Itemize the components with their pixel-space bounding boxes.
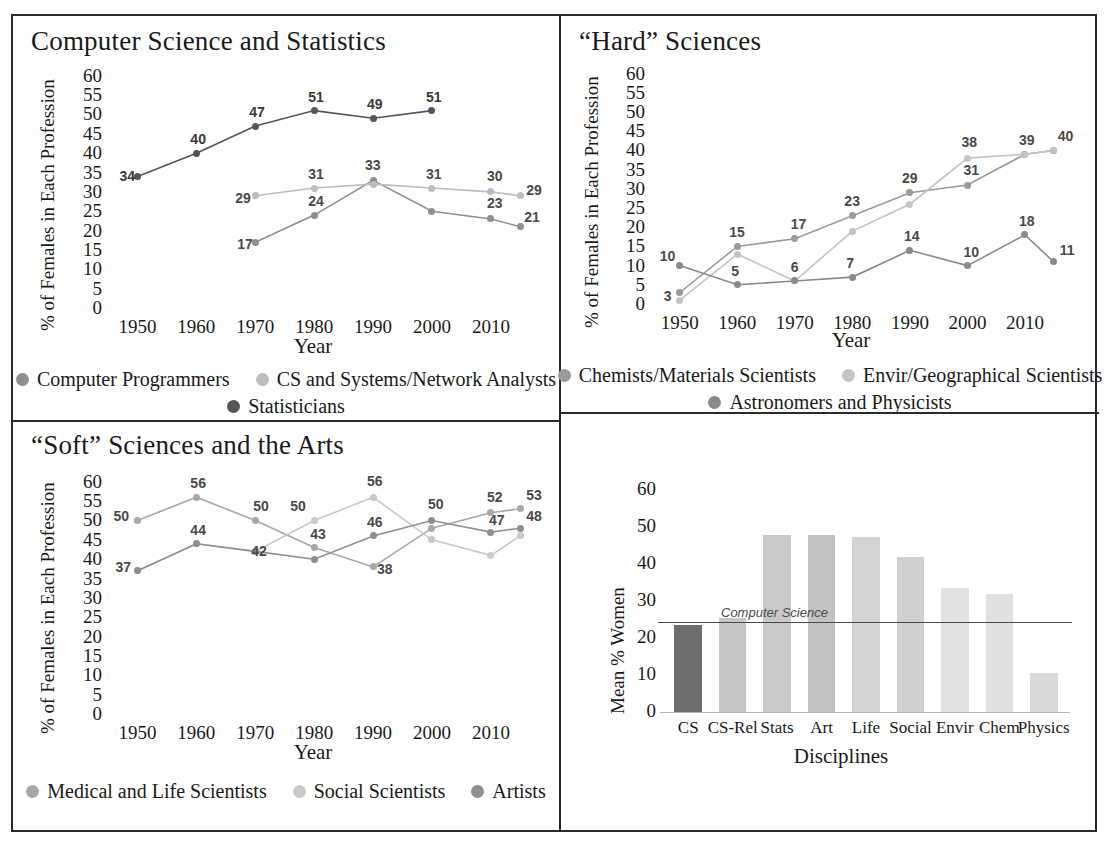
data-point-label: 50 [113, 508, 129, 524]
legend-item[interactable]: Astronomers and Physicists [708, 391, 951, 414]
bar[interactable] [763, 535, 791, 712]
data-point [370, 115, 377, 122]
legend-item[interactable]: Chemists/Materials Scientists [558, 364, 816, 387]
legend-item[interactable]: Envir/Geographical Scientists [842, 364, 1102, 387]
data-point [311, 107, 318, 114]
legend-label: Medical and Life Scientists [47, 780, 266, 803]
data-point [517, 525, 524, 532]
x-axis-label: Disciplines [661, 744, 1021, 769]
x-tick-label: 2000 [402, 316, 462, 338]
data-point-label: 34 [119, 168, 135, 184]
data-point-label: 3 [664, 288, 672, 304]
data-point [311, 212, 318, 219]
data-point-label: 46 [367, 514, 383, 530]
x-tick-label: 1950 [650, 312, 710, 334]
data-point [487, 529, 494, 536]
data-point-label: 30 [487, 168, 503, 184]
bar[interactable] [674, 625, 702, 712]
legend-dot-icon [256, 373, 269, 386]
data-point [252, 517, 259, 524]
data-point-label: 43 [310, 526, 326, 542]
data-point-label: 47 [249, 104, 265, 120]
panel-title: Computer Science and Statistics [31, 26, 386, 57]
data-point [311, 517, 318, 524]
data-point-label: 10 [660, 248, 676, 264]
bar[interactable] [941, 588, 969, 712]
data-point-label: 37 [115, 559, 131, 575]
y-tick-label: 50 [626, 515, 656, 537]
data-point-label: 38 [961, 134, 977, 150]
data-point [734, 251, 741, 258]
x-tick-label: 1990 [880, 312, 940, 334]
legend-dot-icon [16, 373, 29, 386]
legend-item[interactable]: Social Scientists [293, 780, 446, 803]
x-tick-label: 1970 [765, 312, 825, 334]
y-axis-label: % of Females in Each Profession [581, 76, 603, 328]
x-tick-label: 1960 [166, 722, 226, 744]
x-tick-label: 1960 [166, 316, 226, 338]
data-point-label: 29 [526, 182, 542, 198]
data-point-label: 6 [791, 259, 799, 275]
data-point-label: 18 [1019, 213, 1035, 229]
panel-soft-sciences: “Soft” Sciences and the Arts % of Female… [13, 422, 559, 832]
data-point-label: 23 [844, 193, 860, 209]
data-point-label: 31 [426, 166, 442, 182]
data-point-label: 24 [308, 193, 324, 209]
data-point [370, 494, 377, 501]
legend-item[interactable]: Statisticians [227, 395, 345, 418]
data-point-label: 29 [235, 190, 251, 206]
figure-frame: Computer Science and Statistics % of Fem… [11, 14, 1097, 832]
data-point [964, 182, 971, 189]
x-tick-label: 1980 [284, 316, 344, 338]
y-tick-label: 60 [626, 478, 656, 500]
bar[interactable] [852, 537, 880, 712]
data-point-label: 49 [367, 96, 383, 112]
legend-label: Envir/Geographical Scientists [863, 364, 1102, 387]
plot-area: 17243323212931313029344047514951 [108, 68, 538, 308]
legend: Medical and Life ScientistsSocial Scient… [13, 780, 559, 803]
panel-title: “Soft” Sciences and the Arts [31, 430, 344, 461]
legend-item[interactable]: Medical and Life Scientists [26, 780, 266, 803]
series-lines [651, 66, 1108, 324]
data-point-label: 47 [489, 512, 505, 528]
plot-area [666, 472, 1066, 712]
x-tick-label: 1990 [343, 722, 403, 744]
data-point-label: 23 [487, 195, 503, 211]
x-tick-label: 1950 [107, 722, 167, 744]
bar[interactable] [897, 557, 925, 712]
legend-item[interactable]: Artists [471, 780, 545, 803]
data-point-label: 31 [963, 162, 979, 178]
data-point [849, 274, 856, 281]
y-tick-label: 0 [615, 293, 645, 315]
series-line [255, 184, 520, 196]
legend-label: Statisticians [248, 395, 345, 418]
legend-label: Astronomers and Physicists [729, 391, 951, 414]
legend-item[interactable]: Computer Programmers [16, 368, 230, 391]
bar[interactable] [986, 594, 1014, 712]
y-axis-label: % of Females in Each Profession [37, 79, 59, 331]
legend-dot-icon [293, 785, 306, 798]
data-point-label: 51 [308, 89, 324, 105]
y-tick-label: 0 [72, 703, 102, 725]
data-point-label: 17 [791, 216, 807, 232]
data-point [193, 540, 200, 547]
legend-dot-icon [26, 785, 39, 798]
legend-dot-icon [558, 369, 571, 382]
bar[interactable] [719, 618, 747, 712]
series-line [255, 180, 520, 242]
bar[interactable] [808, 535, 836, 712]
panel-title: “Hard” Sciences [579, 26, 761, 57]
bar-category-label: Physics [1014, 718, 1074, 738]
data-point-label: 50 [290, 498, 306, 514]
data-point-label: 53 [526, 487, 542, 503]
panel-cs-stats: Computer Science and Statistics % of Fem… [13, 16, 559, 420]
legend-item[interactable]: CS and Systems/Network Analysts [256, 368, 556, 391]
data-point-label: 7 [846, 255, 854, 271]
legend-dot-icon [471, 785, 484, 798]
data-point-label: 10 [963, 244, 979, 260]
bar[interactable] [1030, 673, 1058, 712]
data-point [517, 223, 524, 230]
legend-label: Social Scientists [314, 780, 446, 803]
y-tick-label: 0 [72, 297, 102, 319]
data-point [964, 262, 971, 269]
